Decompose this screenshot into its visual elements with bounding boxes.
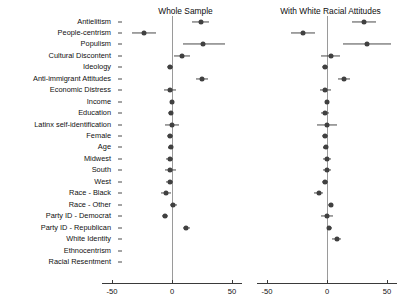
y-axis-label-midwest: Midwest bbox=[84, 155, 118, 163]
point-estimate-female bbox=[167, 134, 172, 139]
point-estimate-party-id-republican bbox=[327, 225, 332, 230]
point-estimate-race-other bbox=[328, 202, 333, 207]
point-estimate-anti-immigrant-attitudes bbox=[341, 76, 346, 81]
y-axis-tick bbox=[118, 250, 122, 251]
y-axis-tick bbox=[118, 78, 122, 79]
point-estimate-people-centrism bbox=[142, 30, 147, 35]
y-axis-tick bbox=[118, 193, 122, 194]
x-axis-tick-label: 50 bbox=[228, 287, 236, 296]
point-estimate-age bbox=[168, 145, 173, 150]
y-axis-label-race-other: Race - Other bbox=[69, 201, 118, 209]
y-axis-label-ethnocentrism: Ethnocentrism bbox=[64, 247, 118, 255]
plot-area-with-white-racial-attitudes: -50050 bbox=[253, 0, 408, 307]
plot-area-whole-sample: -50050 bbox=[118, 0, 253, 307]
x-axis-tick-label: -50 bbox=[262, 287, 273, 296]
y-axis-tick bbox=[118, 261, 122, 262]
y-axis-tick bbox=[118, 21, 122, 22]
point-estimate-race-black bbox=[316, 191, 321, 196]
y-axis-category-labels: AntielitismPeople-centrismPopulismCultur… bbox=[0, 0, 118, 307]
y-axis-tick bbox=[118, 101, 122, 102]
y-axis-label-anti-immigrant-attitudes: Anti-immigrant Attitudes bbox=[33, 75, 118, 83]
y-axis-tick bbox=[118, 204, 122, 205]
panel-whole-sample: Whole Sample -50050 bbox=[118, 0, 253, 307]
y-axis-label-party-id-democrat: Party ID - Democrat bbox=[46, 212, 118, 220]
point-estimate-people-centrism bbox=[301, 30, 306, 35]
panel-with-white-racial-attitudes: With White Racial Attitudes -50050 bbox=[253, 0, 408, 307]
y-axis-tick bbox=[118, 44, 122, 45]
x-axis-line bbox=[102, 283, 241, 284]
point-estimate-race-black bbox=[164, 191, 169, 196]
point-estimate-latinx-self-identification bbox=[170, 122, 175, 127]
x-axis-tick-label: 0 bbox=[325, 287, 329, 296]
y-axis-tick bbox=[118, 124, 122, 125]
x-axis-tick-label: 0 bbox=[170, 287, 174, 296]
y-axis-tick bbox=[118, 147, 122, 148]
point-estimate-latinx-self-identification bbox=[325, 122, 330, 127]
x-axis-tick bbox=[387, 280, 388, 283]
point-estimate-antielitism bbox=[362, 19, 367, 24]
y-axis-tick bbox=[118, 216, 122, 217]
y-axis-label-economic-distress: Economic Distress bbox=[50, 86, 118, 94]
y-axis-tick bbox=[118, 136, 122, 137]
point-estimate-anti-immigrant-attitudes bbox=[200, 76, 205, 81]
y-axis-label-south: South bbox=[92, 166, 118, 174]
y-axis-label-people-centrism: People-centrism bbox=[58, 29, 118, 37]
y-axis-tick bbox=[118, 90, 122, 91]
y-axis-label-latinx-self-identification: Latinx self-identification bbox=[34, 121, 118, 129]
y-axis-label-female: Female bbox=[86, 132, 118, 140]
y-axis-label-age: Age bbox=[98, 143, 118, 151]
x-axis-tick bbox=[172, 280, 173, 283]
coefficient-plot-figure: AntielitismPeople-centrismPopulismCultur… bbox=[0, 0, 408, 307]
y-axis-label-antielitism: Antielitism bbox=[77, 18, 118, 26]
y-axis-tick bbox=[118, 67, 122, 68]
y-axis-label-populism: Populism bbox=[81, 40, 118, 48]
y-axis-label-ideology: Ideology bbox=[83, 63, 118, 71]
x-axis-line bbox=[257, 283, 396, 284]
y-axis-tick bbox=[118, 239, 122, 240]
y-axis-label-income: Income bbox=[87, 98, 118, 106]
y-axis-tick bbox=[118, 113, 122, 114]
point-estimate-race-other bbox=[171, 202, 176, 207]
point-estimate-antielitism bbox=[198, 19, 203, 24]
y-axis-tick bbox=[118, 227, 122, 228]
point-estimate-cultural-discontent bbox=[179, 53, 184, 58]
point-estimate-white-identity bbox=[334, 237, 339, 242]
point-estimate-midwest bbox=[325, 156, 330, 161]
point-estimate-west bbox=[323, 179, 328, 184]
x-axis-tick bbox=[232, 280, 233, 283]
x-axis-tick bbox=[267, 280, 268, 283]
y-axis-label-party-id-republican: Party ID - Republican bbox=[41, 224, 118, 232]
point-estimate-party-id-republican bbox=[184, 225, 189, 230]
y-axis-tick bbox=[118, 55, 122, 56]
point-estimate-midwest bbox=[167, 156, 172, 161]
point-estimate-party-id-democrat bbox=[325, 214, 330, 219]
point-estimate-cultural-discontent bbox=[328, 53, 333, 58]
point-estimate-economic-distress bbox=[167, 88, 172, 93]
point-estimate-income bbox=[325, 99, 330, 104]
point-estimate-populism bbox=[364, 42, 369, 47]
x-axis-tick bbox=[112, 280, 113, 283]
y-axis-label-racial-resentment: Racial Resentment bbox=[49, 258, 118, 266]
y-axis-label-education: Education bbox=[78, 109, 118, 117]
y-axis-tick bbox=[118, 170, 122, 171]
point-estimate-age bbox=[323, 145, 328, 150]
y-axis-label-cultural-discontent: Cultural Discontent bbox=[49, 52, 118, 60]
x-axis-tick bbox=[327, 280, 328, 283]
point-estimate-female bbox=[322, 134, 327, 139]
y-axis-label-race-black: Race - Black bbox=[69, 189, 118, 197]
y-axis-tick bbox=[118, 158, 122, 159]
point-estimate-education bbox=[168, 111, 173, 116]
point-estimate-education bbox=[323, 111, 328, 116]
point-estimate-ideology bbox=[323, 65, 328, 70]
point-estimate-south bbox=[325, 168, 330, 173]
point-estimate-west bbox=[167, 179, 172, 184]
y-axis-label-white-identity: White Identity bbox=[66, 235, 118, 243]
y-axis-label-west: West bbox=[94, 178, 118, 186]
x-axis-tick-label: -50 bbox=[107, 287, 118, 296]
point-estimate-party-id-democrat bbox=[163, 214, 168, 219]
point-estimate-ideology bbox=[168, 65, 173, 70]
y-axis-tick bbox=[118, 32, 122, 33]
point-estimate-south bbox=[168, 168, 173, 173]
x-axis-tick-label: 50 bbox=[383, 287, 391, 296]
y-axis-tick bbox=[118, 181, 122, 182]
